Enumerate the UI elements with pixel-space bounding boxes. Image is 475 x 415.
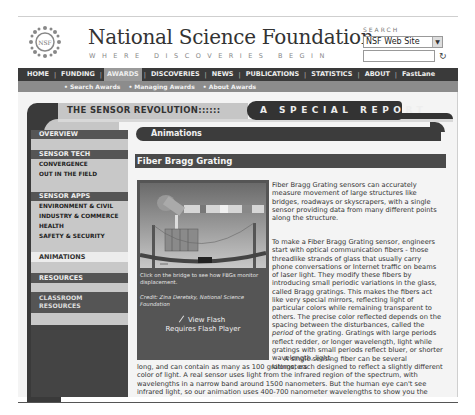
topic-title: Fiber Bragg Grating — [135, 154, 446, 168]
chevron-down-icon[interactable]: ▼ — [432, 37, 442, 47]
nav-home[interactable]: HOME — [24, 68, 52, 81]
sidebar-item-classroom-resources[interactable]: CLASSROOM RESOURCES — [31, 292, 128, 313]
nsf-logo-icon[interactable]: NSF — [28, 25, 62, 59]
para2-emphasis: period — [272, 329, 293, 337]
org-name[interactable]: National Science Foundation — [88, 25, 373, 49]
tagline: WHERE DISCOVERIES BEGIN — [89, 52, 331, 60]
sidebar-label-line1: CLASSROOM — [39, 294, 120, 302]
sidebar-heading-sensor-tech[interactable]: SENSOR TECH — [31, 150, 128, 159]
footer-divider — [18, 402, 458, 403]
nav-discoveries[interactable]: DISCOVERIES — [148, 68, 203, 81]
main-nav: HOME | FUNDING | AWARDS | DISCOVERIES | … — [18, 68, 458, 81]
flash-figure: Click on the bridge to see how FBGs moni… — [137, 180, 269, 360]
nav-publications[interactable]: PUBLICATIONS — [243, 68, 302, 81]
subnav-search-awards[interactable]: • Search Awards — [64, 83, 120, 90]
figure-credit: Credit: Zina Deretsky, National Science … — [140, 294, 266, 308]
nav-fastlane[interactable]: FastLane — [399, 68, 438, 81]
subnav-managing-awards[interactable]: • Managing Awards — [128, 83, 194, 90]
nav-about[interactable]: ABOUT — [362, 68, 393, 81]
site-header: NSF National Science Foundation WHERE DI… — [18, 16, 458, 66]
subnav-about-awards[interactable]: • About Awards — [203, 83, 256, 90]
nav-statistics[interactable]: STATISTICS — [308, 68, 355, 81]
flash-icon — [179, 315, 184, 322]
nav-funding[interactable]: FUNDING — [58, 68, 98, 81]
figure-caption: Click on the bridge to see how FBGs moni… — [140, 272, 266, 286]
nav-news[interactable]: NEWS — [209, 68, 237, 81]
sidebar-item-environment-civil[interactable]: ENVIRONMENT & CIVIL — [39, 201, 113, 211]
paragraph-how-made: To make a Fiber Bragg Grating sensor, en… — [272, 238, 444, 362]
view-flash-link[interactable]: View Flash — [137, 315, 269, 324]
requires-flash-link[interactable]: Requires Flash Player — [137, 325, 269, 333]
view-flash-label: View Flash — [188, 316, 225, 324]
search-scope-select[interactable]: NSF Web Site ▼ — [363, 36, 443, 48]
paragraph-intro: Fiber Bragg Grating sensors can accurate… — [272, 181, 444, 222]
sidebar-heading-sensor-apps[interactable]: SENSOR APPS — [31, 192, 128, 201]
sidebar-item-industry-commerce[interactable]: INDUSTRY & COMMERCE — [39, 211, 118, 221]
bridge-animation-thumbnail[interactable] — [140, 183, 266, 268]
sidebar-item-resources[interactable]: RESOURCES — [31, 273, 128, 283]
sidebar-label-line2: RESOURCES — [39, 302, 120, 310]
search-scope-value: NSF Web Site — [366, 37, 420, 46]
paragraph-sensing-fiber-cont: long, and can contain as many as 100 gra… — [137, 363, 444, 396]
search-input[interactable] — [363, 50, 435, 62]
search-go-icon[interactable]: ↻ — [439, 50, 447, 62]
para2-text-a: To make a Fiber Bragg Grating sensor, en… — [272, 238, 441, 329]
sidebar-item-out-in-the-field[interactable]: OUT IN THE FIELD — [39, 169, 97, 179]
section-title: Animations — [136, 127, 441, 141]
search-label: SEARCH — [363, 26, 399, 33]
nav-awards[interactable]: AWARDS — [104, 68, 142, 81]
awards-sub-nav: • Search Awards • Managing Awards • Abou… — [18, 81, 458, 92]
page: NSF National Science Foundation WHERE DI… — [0, 0, 475, 415]
sidebar: OVERVIEW SENSOR TECH CONVERGENCE OUT IN … — [31, 130, 128, 397]
sidebar-item-health[interactable]: HEALTH — [39, 221, 64, 231]
special-report-badge: A SPECIAL REPORT — [247, 101, 402, 120]
sidebar-footer-block — [31, 325, 128, 397]
svg-text:NSF: NSF — [38, 39, 52, 46]
sidebar-item-overview[interactable]: OVERVIEW — [31, 130, 128, 139]
sidebar-item-convergence[interactable]: CONVERGENCE — [39, 159, 88, 169]
sidebar-item-safety-security[interactable]: SAFETY & SECURITY — [39, 231, 105, 241]
banner-title: THE SENSOR REVOLUTION:::::: — [67, 105, 220, 115]
sidebar-item-animations[interactable]: ANIMATIONS — [31, 252, 128, 262]
